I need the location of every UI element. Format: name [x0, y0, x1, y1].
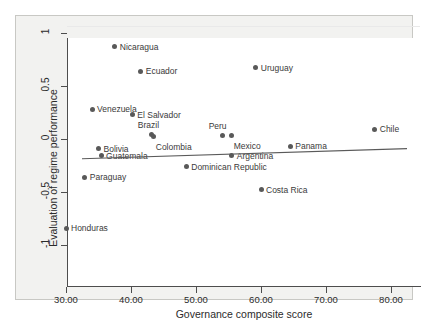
- y-tick-4: [61, 245, 67, 246]
- plot-outer-frame: 10.50-0.5-1 30.0040.0050.0060.0070.0080.…: [15, 15, 413, 300]
- x-tick-3: [261, 287, 262, 293]
- data-point-venezuela: [90, 107, 95, 112]
- x-tick-label-4: 70.00: [301, 294, 351, 305]
- point-label-el-salvador: El Salvador: [137, 111, 180, 120]
- x-tick-label-2: 50.00: [171, 294, 221, 305]
- point-label-colombia: Colombia: [156, 143, 192, 152]
- point-label-uruguay: Uruguay: [261, 64, 293, 73]
- point-label-peru: Peru: [209, 122, 227, 131]
- point-label-ecuador: Ecuador: [146, 67, 178, 76]
- data-point-panama: [288, 144, 293, 149]
- x-axis-title: Governance composite score: [67, 308, 421, 320]
- data-point-dominican-republic: [184, 164, 189, 169]
- point-label-panama: Panama: [295, 142, 327, 151]
- x-tick-label-0: 30.00: [41, 294, 91, 305]
- point-label-costa-rica: Costa Rica: [266, 186, 308, 195]
- x-tick-label-1: 40.00: [106, 294, 156, 305]
- x-tick-label-5: 80.00: [366, 294, 416, 305]
- figure-canvas: 10.50-0.5-1 30.0040.0050.0060.0070.0080.…: [0, 0, 426, 325]
- point-label-argentina: Argentina: [237, 152, 273, 161]
- y-tick-label-0: 1: [40, 19, 51, 45]
- data-point-costa-rica: [259, 187, 264, 192]
- y-tick-1: [61, 86, 67, 87]
- point-label-dominican-republic: Dominican Republic: [191, 163, 267, 172]
- x-tick-2: [196, 287, 197, 293]
- data-point-peru: [220, 133, 225, 138]
- point-label-honduras: Honduras: [71, 224, 108, 233]
- y-axis-title: Evaluation of regime performance: [47, 53, 59, 283]
- data-point-bolivia: [96, 146, 101, 151]
- x-axis-line: [67, 286, 421, 287]
- y-tick-3: [61, 192, 67, 193]
- point-label-paraguay: Paraguay: [90, 173, 126, 182]
- x-tick-0: [66, 287, 67, 293]
- point-label-mexico: Mexico: [234, 142, 261, 151]
- gridline-1: [67, 26, 420, 27]
- data-point-ecuador: [138, 69, 143, 74]
- point-label-brazil: Brazil: [138, 121, 159, 130]
- y-tick-0: [61, 33, 67, 34]
- y-tick-2: [61, 139, 67, 140]
- x-tick-5: [391, 287, 392, 293]
- x-tick-label-3: 60.00: [236, 294, 286, 305]
- point-label-chile: Chile: [380, 125, 399, 134]
- point-label-nicaragua: Nicaragua: [120, 43, 159, 52]
- y-axis-line: [67, 38, 68, 287]
- data-point-el-salvador: [130, 112, 135, 117]
- x-tick-4: [326, 287, 327, 293]
- data-point-honduras: [64, 226, 69, 231]
- point-label-guatemala: Guatemala: [106, 152, 148, 161]
- x-tick-1: [131, 287, 132, 293]
